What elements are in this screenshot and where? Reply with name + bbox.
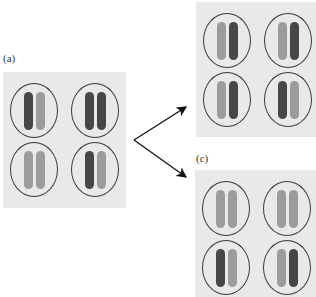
arrows bbox=[0, 0, 316, 297]
arrow-to-c bbox=[134, 140, 186, 177]
arrow-to-b bbox=[134, 107, 186, 140]
